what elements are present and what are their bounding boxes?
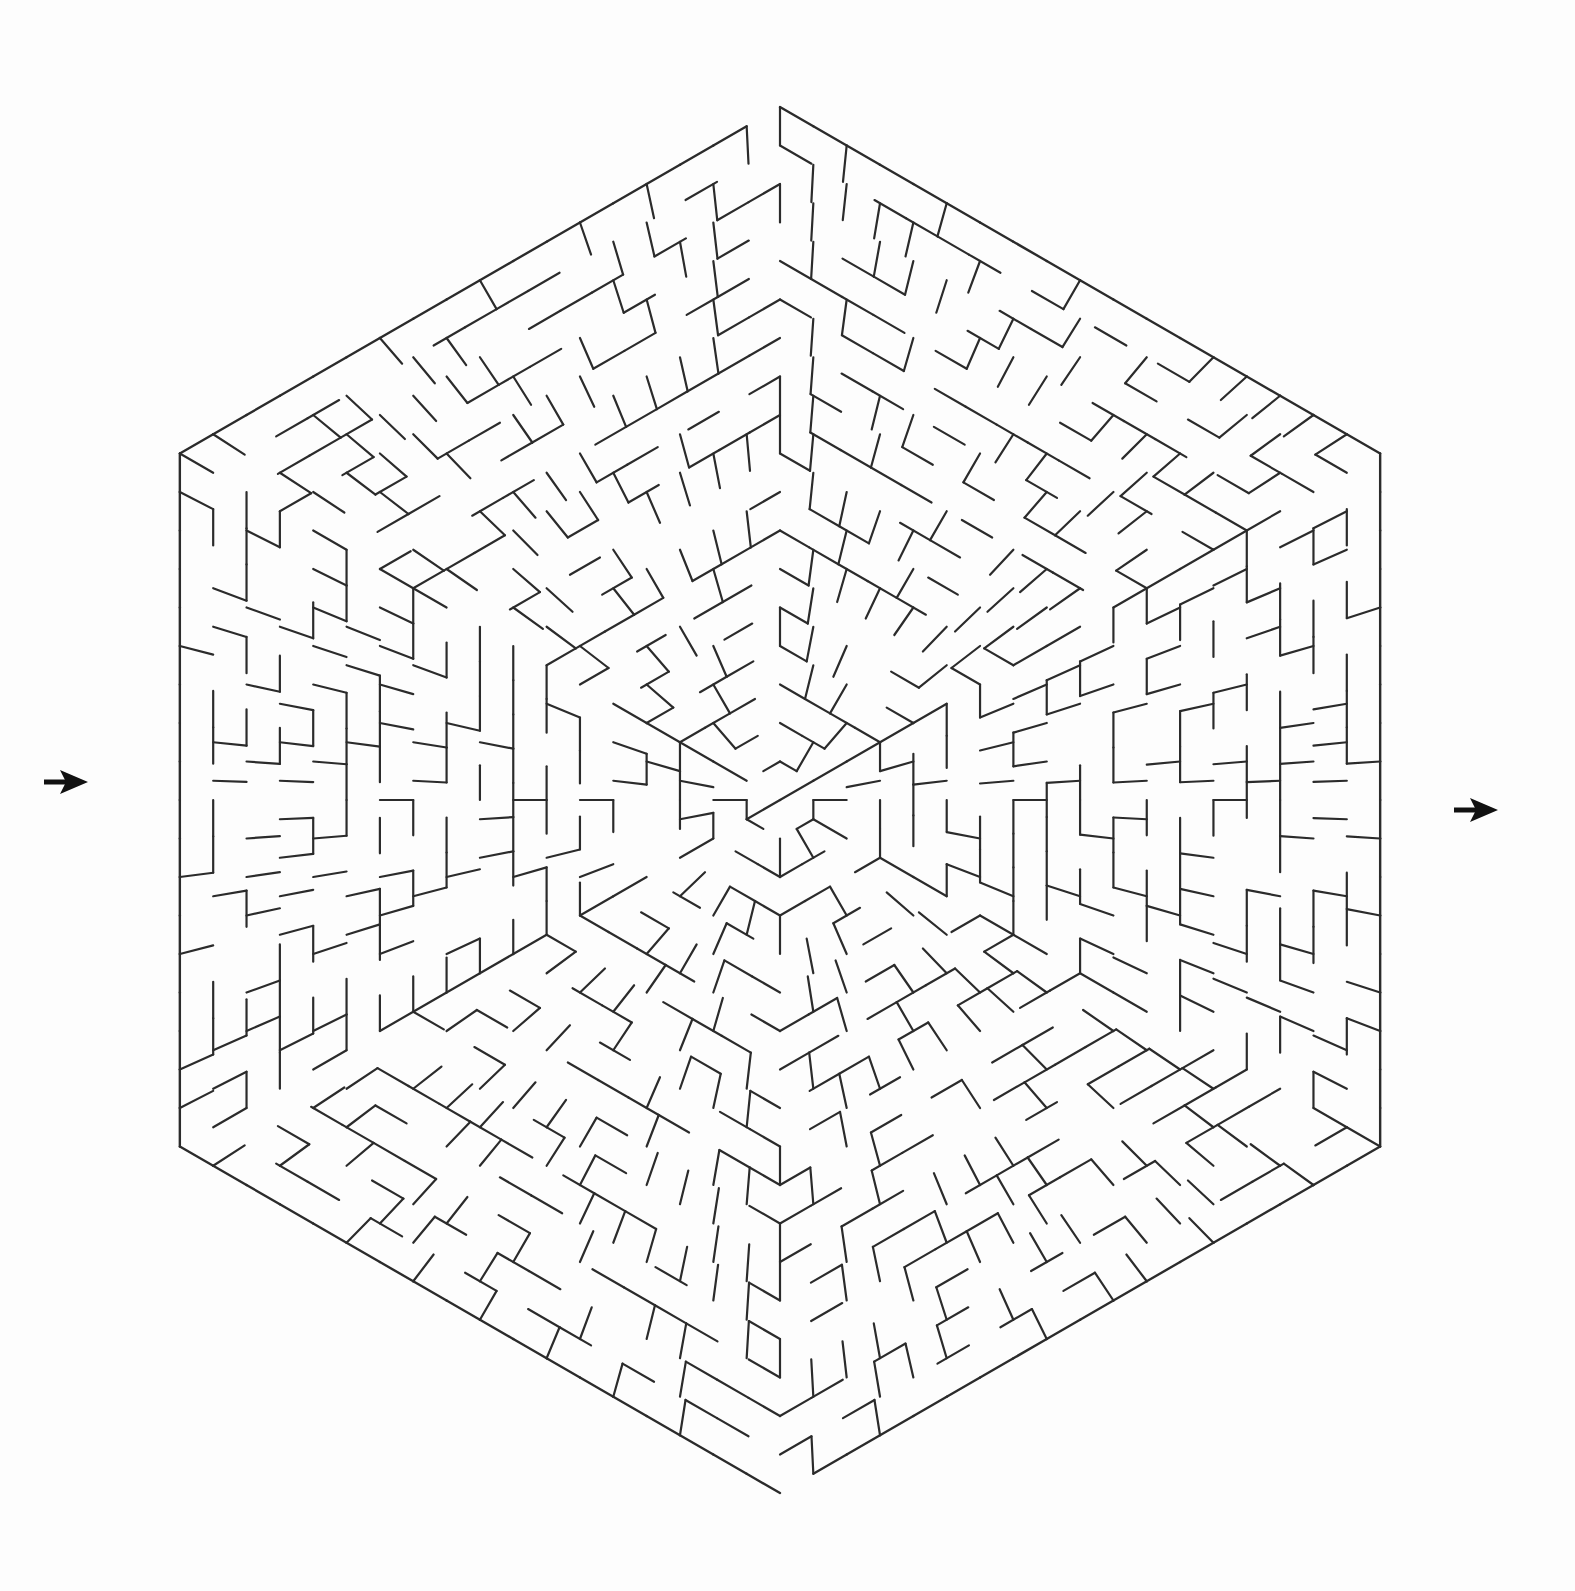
maze-wall-segment bbox=[1213, 569, 1246, 586]
maze-boundary-segment bbox=[413, 300, 446, 319]
maze-wall-segment bbox=[1113, 888, 1146, 897]
maze-wall-segment bbox=[838, 564, 867, 581]
maze-wall-segment bbox=[1047, 665, 1080, 680]
maze-wall-segment bbox=[838, 531, 846, 565]
maze-canvas[interactable] bbox=[0, 0, 1575, 1591]
maze-wall-segment bbox=[780, 1206, 811, 1224]
maze-wall-segment bbox=[1315, 455, 1346, 473]
maze-wall-segment bbox=[347, 627, 380, 640]
maze-wall-segment bbox=[780, 608, 808, 624]
maze-wall-segment bbox=[547, 850, 580, 858]
maze-wall-segment bbox=[405, 1161, 436, 1179]
maze-wall-segment bbox=[280, 781, 313, 782]
maze-wall-segment bbox=[595, 427, 626, 445]
maze-wall-segment bbox=[1251, 1144, 1280, 1166]
maze-wall-segment bbox=[342, 1125, 373, 1143]
maze-wall-segment bbox=[580, 968, 605, 992]
maze-boundary-segment bbox=[1013, 1339, 1046, 1358]
maze-wall-segment bbox=[1080, 646, 1113, 661]
maze-wall-segment bbox=[1315, 434, 1346, 454]
maze-wall-segment bbox=[1119, 511, 1147, 533]
maze-boundary-segment bbox=[1213, 1224, 1246, 1243]
maze-wall-segment bbox=[713, 338, 718, 374]
maze-wall-segment bbox=[955, 608, 980, 632]
maze-wall-segment bbox=[647, 685, 674, 708]
maze-wall-segment bbox=[472, 498, 503, 516]
maze-wall-segment bbox=[447, 1197, 468, 1223]
maze-wall-segment bbox=[874, 203, 880, 238]
maze-wall-segment bbox=[380, 569, 413, 588]
maze-wall-segment bbox=[547, 704, 580, 718]
maze-wall-segment bbox=[686, 1323, 717, 1341]
maze-wall-segment bbox=[613, 242, 623, 275]
maze-wall-segment bbox=[874, 1362, 880, 1397]
maze-wall-segment bbox=[1219, 415, 1246, 438]
maze-wall-segment bbox=[998, 357, 1014, 387]
maze-wall-segment bbox=[713, 1226, 718, 1262]
maze-wall-segment bbox=[995, 1138, 1013, 1166]
maze-wall-segment bbox=[280, 890, 313, 896]
maze-boundary-segment bbox=[1080, 1301, 1113, 1320]
maze-wall-segment bbox=[1147, 762, 1180, 765]
maze-wall-segment bbox=[780, 1244, 811, 1262]
maze-wall-segment bbox=[1213, 531, 1246, 550]
maze-wall-segment bbox=[647, 223, 655, 257]
maze-wall-segment bbox=[580, 454, 597, 483]
maze-wall-segment bbox=[1182, 1050, 1213, 1068]
maze-wall-segment bbox=[797, 829, 814, 858]
maze-wall-segment bbox=[951, 916, 980, 933]
maze-wall-segment bbox=[1000, 1289, 1014, 1320]
maze-wall-segment bbox=[313, 1015, 346, 1032]
maze-boundary-segment bbox=[847, 1435, 880, 1454]
maze-wall-segment bbox=[313, 569, 346, 586]
maze-wall-segment bbox=[580, 668, 609, 685]
maze-wall-segment bbox=[313, 492, 344, 513]
maze-wall-segment bbox=[480, 1065, 505, 1089]
maze-wall-segment bbox=[1094, 1217, 1125, 1235]
maze-wall-segment bbox=[380, 723, 413, 729]
maze-wall-segment bbox=[780, 531, 809, 548]
maze-wall-segment bbox=[513, 1008, 540, 1031]
maze-wall-segment bbox=[499, 367, 530, 385]
maze-wall-segment bbox=[720, 1112, 750, 1129]
maze-wall-segment bbox=[580, 896, 613, 915]
maze-wall-segment bbox=[480, 1291, 497, 1320]
maze-wall-segment bbox=[1020, 991, 1050, 1008]
maze-wall-segment bbox=[613, 1022, 632, 1050]
maze-wall-segment bbox=[580, 916, 609, 933]
maze-wall-segment bbox=[626, 409, 657, 427]
maze-wall-segment bbox=[180, 646, 213, 655]
maze-wall-segment bbox=[597, 1118, 628, 1136]
maze-wall-segment bbox=[1030, 1233, 1047, 1262]
maze-wall-segment bbox=[984, 648, 1013, 665]
maze-wall-segment bbox=[928, 578, 958, 595]
maze-wall-segment bbox=[213, 1145, 244, 1165]
maze-wall-segment bbox=[347, 889, 380, 896]
maze-wall-segment bbox=[713, 569, 723, 602]
maze-wall-segment bbox=[717, 1418, 748, 1436]
maze-wall-segment bbox=[503, 480, 534, 498]
maze-boundary-segment bbox=[1280, 1185, 1313, 1204]
maze-wall-segment bbox=[380, 1199, 404, 1224]
maze-wall-segment bbox=[247, 608, 280, 620]
maze-wall-segment bbox=[837, 998, 847, 1031]
maze-wall-segment bbox=[936, 1287, 946, 1319]
maze-wall-segment bbox=[807, 627, 814, 662]
maze-wall-segment bbox=[276, 1164, 307, 1182]
maze-wall-segment bbox=[1088, 1084, 1114, 1108]
maze-boundary-segment bbox=[1147, 1262, 1180, 1281]
maze-wall-segment bbox=[994, 1082, 1025, 1100]
maze-wall-segment bbox=[923, 949, 947, 974]
maze-wall-segment bbox=[842, 1226, 847, 1262]
maze-wall-segment bbox=[1188, 1180, 1214, 1204]
maze-wall-segment bbox=[613, 877, 646, 896]
maze-wall-segment bbox=[347, 396, 373, 420]
maze-wall-segment bbox=[1047, 627, 1080, 646]
maze-wall-segment bbox=[573, 988, 603, 1005]
maze-wall-segment bbox=[805, 699, 830, 713]
maze-wall-segment bbox=[380, 646, 413, 659]
maze-wall-segment bbox=[813, 819, 846, 838]
maze-wall-segment bbox=[802, 851, 824, 864]
maze-boundary-segment bbox=[780, 107, 813, 126]
maze-wall-segment bbox=[868, 1002, 897, 1019]
